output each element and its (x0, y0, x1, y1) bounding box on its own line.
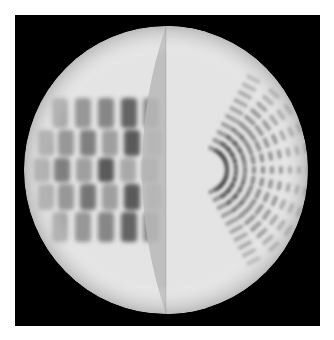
sphere-shading (24, 26, 308, 314)
sphere-wave-pattern-image (0, 0, 334, 340)
sphere (24, 26, 310, 314)
figure (0, 0, 334, 340)
